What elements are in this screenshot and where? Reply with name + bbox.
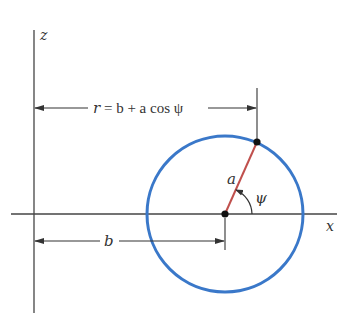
x-axis-label: x	[326, 218, 334, 234]
r-equation-rest: = b + a cos ψ	[100, 100, 184, 116]
r-equation: r = b + a cos ψ	[93, 99, 184, 117]
z-axis-label: z	[39, 27, 48, 43]
angle-arc-psi	[236, 190, 252, 214]
radius-label-a: a	[227, 170, 236, 188]
angle-label-psi: ψ	[255, 189, 267, 207]
b-label: b	[104, 232, 114, 250]
torus-diagram: z x r = b + a cos ψ a ψ b	[0, 0, 347, 327]
point-on-circle-dot	[253, 138, 260, 145]
circle-center-dot	[221, 210, 228, 217]
